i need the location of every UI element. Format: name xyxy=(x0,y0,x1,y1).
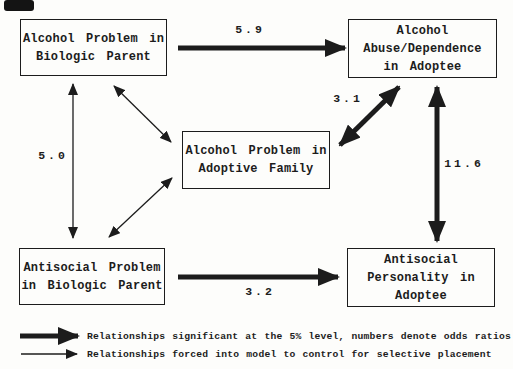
box-text-line: in Adoptee xyxy=(383,58,461,76)
box-text-line: Adoptive Family xyxy=(198,160,313,178)
box-text-line: Personality in xyxy=(367,269,475,287)
box-alcohol-abuse-dependence-adoptee: Alcohol Abuse/Dependence in Adoptee xyxy=(348,19,497,78)
box-text-line: Adoptee xyxy=(395,287,447,305)
odds-ratio-label-5-0: 5.0 xyxy=(31,149,75,162)
odds-ratio-label-3-1: 3.1 xyxy=(328,92,368,105)
odds-ratio-label-5-9: 5.9 xyxy=(228,23,272,36)
box-text-line: Antisocial xyxy=(384,251,458,269)
arrow-selective-placement-lower xyxy=(109,178,172,237)
box-text-line: Antisocial Problem xyxy=(23,259,160,277)
box-text-line: in Biologic Parent xyxy=(21,277,162,295)
odds-ratio-label-11-6: 11.6 xyxy=(441,157,487,170)
box-text-line: Alcohol xyxy=(397,22,449,40)
odds-ratio-label-3-2: 3.2 xyxy=(238,285,282,298)
arrow-selective-placement-upper xyxy=(114,86,171,142)
box-alcohol-problem-biologic-parent: Alcohol Problem in Biologic Parent xyxy=(20,19,167,76)
legend-thin-arrow-caption: Relationships forced into model to contr… xyxy=(87,349,492,360)
legend-thick-arrow-caption: Relationships significant at the 5% leve… xyxy=(87,331,511,342)
adoption-study-path-diagram: Alcohol Problem in Biologic Parent Alcoh… xyxy=(0,0,513,369)
box-antisocial-problem-biologic-parent: Antisocial Problem in Biologic Parent xyxy=(19,248,165,305)
box-text-line: Biologic Parent xyxy=(36,48,151,66)
box-text-line: Alcohol Problem in xyxy=(23,30,164,48)
box-antisocial-personality-adoptee: Antisocial Personality in Adoptee xyxy=(347,248,495,307)
box-text-line: Abuse/Dependence xyxy=(363,40,481,58)
box-alcohol-problem-adoptive-family: Alcohol Problem in Adoptive Family xyxy=(182,131,330,189)
box-text-line: Alcohol Problem in xyxy=(185,142,326,160)
